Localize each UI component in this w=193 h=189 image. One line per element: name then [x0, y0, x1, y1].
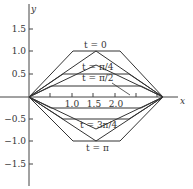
y-tick-label: 1.5 [12, 24, 27, 34]
x-axis-label: x [180, 96, 185, 106]
label-t-pi: t = π [86, 143, 109, 153]
y-tick-label: −1.5 [4, 159, 26, 169]
label-t-pi4: t = π/4 [82, 62, 114, 72]
y-tick-label: −0.5 [4, 114, 26, 124]
y-tick-label: 0.5 [12, 69, 27, 79]
wave-chart: x y 1.5 1.0 0.5 −0.5 −1.0 −1.5 1.0 1.5 2… [0, 0, 193, 189]
x-ticks [50, 93, 157, 97]
y-axis-label: y [30, 4, 37, 14]
y-tick-label: −1.0 [4, 136, 26, 146]
label-t-3pi4: t = 3π/4 [80, 120, 118, 130]
label-t-pi2: t = π/2 [82, 73, 114, 83]
label-t0: t = 0 [84, 40, 107, 50]
y-tick-label: 1.0 [12, 46, 27, 56]
